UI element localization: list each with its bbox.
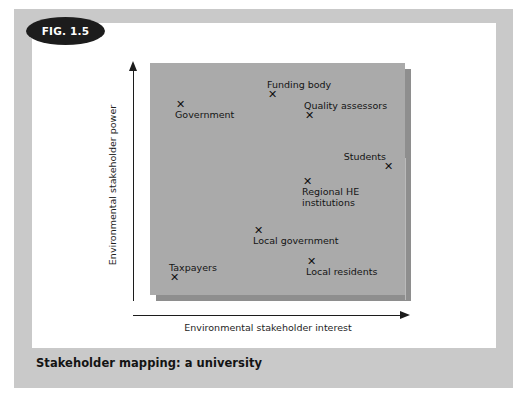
data-point-label-students: Students (344, 151, 386, 162)
y-axis-line (133, 70, 134, 301)
x-axis-label: Environmental stakeholder interest (184, 322, 351, 333)
data-point-label-funding-body: Funding body (267, 79, 331, 90)
data-point-label-taxpayers: Taxpayers (169, 262, 217, 273)
y-axis-label: Environmental stakeholder power (107, 105, 118, 265)
y-axis-arrow-icon (129, 61, 137, 71)
cross-marker-icon: ✕ (268, 91, 277, 100)
stakeholder-map-chart: Environmental stakeholder power Environm… (0, 0, 527, 403)
cross-marker-icon: ✕ (170, 274, 179, 283)
figure-number-badge: FIG. 1.5 (26, 17, 105, 45)
data-point-label-local-government: Local government (253, 235, 339, 246)
figure-number-label: FIG. 1.5 (42, 26, 90, 37)
data-point-label-regional-he-institutions: Regional HEinstitutions (302, 186, 359, 208)
figure-caption-bar: Stakeholder mapping: a university (14, 348, 513, 378)
x-axis-line (133, 315, 402, 316)
data-point-label-regional-he-institutions-line2: institutions (302, 197, 355, 208)
figure-caption-text: Stakeholder mapping: a university (14, 356, 262, 370)
data-point-label-quality-assessors: Quality assessors (304, 100, 387, 111)
x-axis-arrow-icon (400, 311, 410, 319)
plot-area (150, 63, 405, 295)
plot-divider-line (405, 158, 406, 300)
cross-marker-icon: ✕ (305, 112, 314, 121)
cross-marker-icon: ✕ (384, 163, 393, 172)
data-point-label-government: Government (175, 109, 234, 120)
data-point-label-local-residents: Local residents (306, 266, 377, 277)
